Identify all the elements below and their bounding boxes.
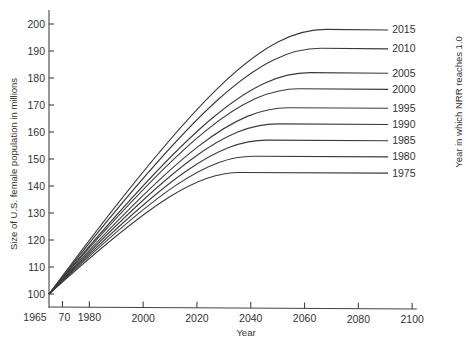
y-axis-title: Size of U.S. female population in millio… [8, 78, 19, 250]
population-curve-2005 [49, 73, 388, 294]
x-tick-label: 2100 [400, 313, 424, 325]
series-label-1980: 1980 [392, 150, 416, 162]
x-tick-label: 1980 [78, 311, 102, 323]
series-label-1990: 1990 [392, 118, 416, 130]
series-label-1985: 1985 [392, 134, 416, 146]
y-tick-label: 150 [27, 153, 45, 165]
x-tick-label: 1965 [23, 311, 47, 323]
y-tick-label: 100 [27, 288, 45, 300]
y-tick-label: 190 [27, 45, 45, 57]
axes [49, 10, 417, 309]
labels: 1001101201301401501601701801902001965701… [8, 18, 464, 338]
y-tick-label: 200 [27, 18, 45, 30]
right-axis-title: Year in which NRR reaches 1.0 [453, 36, 464, 168]
y-tick-label: 120 [27, 234, 45, 246]
population-curve-2015 [49, 29, 388, 294]
population-curve-1990 [49, 124, 388, 294]
series-label-2015: 2015 [392, 23, 416, 35]
curves [49, 29, 388, 294]
series-label-1995: 1995 [392, 102, 416, 114]
x-tick-label: 2000 [131, 312, 155, 324]
x-tick-label: 2060 [293, 312, 317, 324]
population-curve-1980 [49, 156, 388, 294]
series-label-2005: 2005 [392, 67, 416, 79]
population-curve-2010 [49, 48, 388, 294]
population-curve-1975 [49, 173, 388, 295]
population-chart: 1001101201301401501601701801902001965701… [0, 0, 466, 346]
x-axis [49, 307, 417, 309]
x-tick-label: 70 [59, 311, 71, 323]
x-tick-label: 2080 [347, 313, 371, 325]
y-tick-label: 170 [27, 99, 45, 111]
x-tick-label: 2020 [185, 312, 209, 324]
x-tick-label: 2040 [239, 312, 263, 324]
series-label-2000: 2000 [392, 83, 416, 95]
x-axis-title: Year [236, 327, 255, 338]
series-label-2010: 2010 [392, 42, 416, 54]
series-label-1975: 1975 [392, 167, 416, 179]
y-tick-label: 160 [27, 126, 45, 138]
y-tick-label: 110 [28, 261, 45, 273]
y-tick-label: 140 [27, 180, 45, 192]
population-curve-2000 [49, 89, 388, 294]
population-curve-1995 [49, 108, 388, 294]
y-tick-label: 180 [27, 72, 45, 84]
y-tick-label: 130 [27, 207, 45, 219]
